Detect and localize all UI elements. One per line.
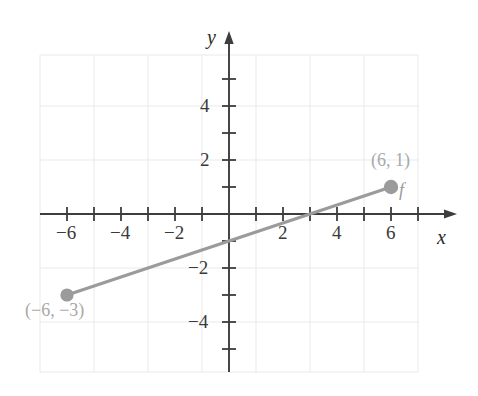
y-tick-label-2: 2 (200, 149, 210, 171)
curve-label-f: f (399, 180, 404, 201)
x-tick-label-2: 2 (278, 222, 288, 244)
x-tick-label--2: −2 (164, 222, 184, 244)
x-axis-arrow (444, 210, 457, 219)
y-tick-label--4: −4 (188, 311, 208, 333)
graph-figure: −6 −4 −2 2 4 6 4 2 −2 −4 x y (6, 1) (−6,… (0, 0, 478, 396)
coordinate-plane-svg (0, 0, 478, 396)
point-label--6--3: (−6, −3) (25, 300, 84, 321)
y-axis-label: y (207, 26, 216, 49)
y-axis-arrow (224, 31, 233, 44)
y-tick-label--2: −2 (188, 257, 208, 279)
axes (40, 31, 457, 372)
x-tick-label-6: 6 (386, 222, 396, 244)
x-tick-label--6: −6 (56, 222, 76, 244)
endpoint-dot-right (384, 180, 398, 194)
x-tick-label-4: 4 (332, 222, 342, 244)
x-tick-label--4: −4 (110, 222, 130, 244)
y-tick-label-4: 4 (200, 95, 210, 117)
point-label-6-1: (6, 1) (371, 150, 410, 171)
x-axis-label: x (437, 226, 446, 249)
